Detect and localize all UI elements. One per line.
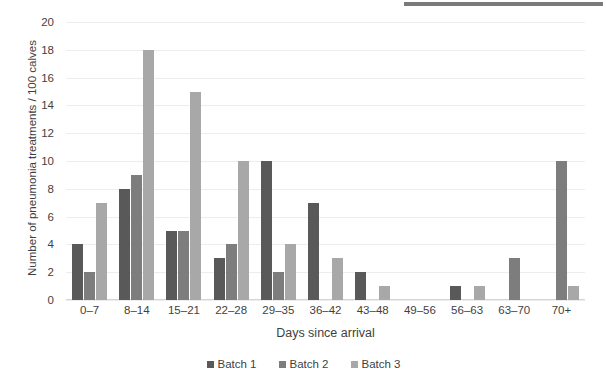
x-axis-tick-label: 29–35 — [255, 304, 302, 322]
y-axis-tick-label: 8 — [48, 183, 54, 195]
legend-swatch-icon — [279, 361, 286, 368]
bar — [355, 272, 366, 300]
y-axis-tick-label: 12 — [41, 127, 54, 139]
bar — [119, 189, 130, 300]
bar-group — [208, 22, 255, 300]
bar-chart: Number of pneumonia treatments / 100 cal… — [0, 0, 607, 386]
x-axis-tick-labels: 0–78–1415–2122–2829–3536–4243–4849–5656–… — [66, 304, 585, 322]
y-axis-tick-label: 16 — [41, 72, 54, 84]
legend-item[interactable]: Batch 1 — [207, 358, 257, 370]
x-axis-tick-label: 70+ — [538, 304, 585, 322]
x-axis-tick-label: 43–48 — [349, 304, 396, 322]
legend-swatch-icon — [351, 361, 358, 368]
bar — [226, 244, 237, 300]
bar — [96, 203, 107, 300]
x-axis-tick-label: 8–14 — [113, 304, 160, 322]
bar — [273, 272, 284, 300]
legend-label: Batch 2 — [290, 358, 329, 370]
gridline — [66, 300, 585, 301]
bar — [509, 258, 520, 300]
x-axis-title: Days since arrival — [66, 326, 585, 340]
bar-group — [255, 22, 302, 300]
y-axis-tick-label: 10 — [41, 155, 54, 167]
x-axis-tick-label: 0–7 — [66, 304, 113, 322]
y-axis-tick-label: 18 — [41, 44, 54, 56]
legend-item[interactable]: Batch 3 — [351, 358, 401, 370]
y-axis-tick-labels: 20181614121086420 — [0, 22, 60, 300]
y-axis-tick-label: 0 — [48, 294, 54, 306]
x-axis-tick-label: 36–42 — [302, 304, 349, 322]
bar-group — [302, 22, 349, 300]
x-axis-tick-label: 56–63 — [444, 304, 491, 322]
legend-item[interactable]: Batch 2 — [279, 358, 329, 370]
bar — [474, 286, 485, 300]
chart-legend: Batch 1Batch 2Batch 3 — [0, 358, 607, 370]
bar — [308, 203, 319, 300]
x-axis-tick-label: 49–56 — [396, 304, 443, 322]
bar — [238, 161, 249, 300]
bar — [214, 258, 225, 300]
bar — [84, 272, 95, 300]
bar — [166, 231, 177, 301]
bar-group — [349, 22, 396, 300]
bar — [178, 231, 189, 301]
legend-label: Batch 1 — [218, 358, 257, 370]
bar — [450, 286, 461, 300]
y-axis-tick-label: 14 — [41, 99, 54, 111]
bar-group — [538, 22, 585, 300]
bar-group — [66, 22, 113, 300]
x-axis-tick-label: 22–28 — [208, 304, 255, 322]
bar — [131, 175, 142, 300]
x-axis-tick-label: 15–21 — [160, 304, 207, 322]
bar-group — [444, 22, 491, 300]
bar-groups — [66, 22, 585, 300]
legend-label: Batch 3 — [362, 358, 401, 370]
bar-group — [491, 22, 538, 300]
bar-group — [113, 22, 160, 300]
bar-group — [160, 22, 207, 300]
bar — [143, 50, 154, 300]
top-edge-artifact — [404, 2, 603, 6]
bar — [285, 244, 296, 300]
plot-area — [66, 22, 585, 300]
bar — [72, 244, 83, 300]
x-axis-tick-label: 63–70 — [491, 304, 538, 322]
bar — [379, 286, 390, 300]
y-axis-tick-label: 6 — [48, 211, 54, 223]
bar-group — [396, 22, 443, 300]
bar — [332, 258, 343, 300]
y-axis-tick-label: 2 — [48, 266, 54, 278]
legend-swatch-icon — [207, 361, 214, 368]
y-axis-tick-label: 20 — [41, 16, 54, 28]
bar — [568, 286, 579, 300]
y-axis-tick-label: 4 — [48, 238, 54, 250]
bar — [261, 161, 272, 300]
bar — [190, 92, 201, 301]
bar — [556, 161, 567, 300]
